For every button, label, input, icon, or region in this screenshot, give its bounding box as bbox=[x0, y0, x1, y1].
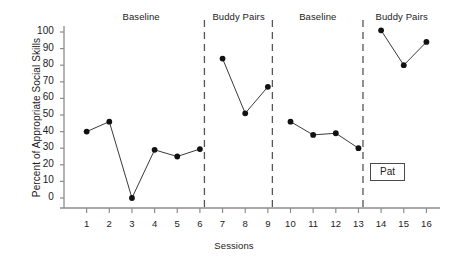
y-tick-label: 10 bbox=[28, 174, 54, 185]
y-tick-label: 20 bbox=[28, 158, 54, 169]
data-point bbox=[106, 119, 112, 125]
x-tick-label: 11 bbox=[303, 218, 323, 229]
phase-label: Baseline bbox=[299, 11, 336, 22]
x-tick-label: 2 bbox=[99, 218, 119, 229]
x-tick-label: 10 bbox=[281, 218, 301, 229]
series-line-phase-2 bbox=[291, 122, 359, 149]
phase-label: Buddy Pairs bbox=[375, 11, 427, 22]
x-tick-label: 15 bbox=[394, 218, 414, 229]
data-point bbox=[310, 132, 316, 138]
x-tick-label: 16 bbox=[416, 218, 436, 229]
data-point bbox=[356, 145, 362, 151]
y-tick-label: 90 bbox=[28, 42, 54, 53]
chart-figure: Percent of Appropriate Social Skills Ses… bbox=[0, 0, 468, 265]
series-line-phase-1 bbox=[223, 59, 268, 114]
data-point bbox=[174, 154, 180, 160]
y-tick-label: 80 bbox=[28, 58, 54, 69]
data-point bbox=[265, 84, 271, 90]
data-point bbox=[378, 27, 384, 33]
x-tick-label: 3 bbox=[122, 218, 142, 229]
x-tick-label: 14 bbox=[371, 218, 391, 229]
x-tick-label: 4 bbox=[145, 218, 165, 229]
x-tick-label: 9 bbox=[258, 218, 278, 229]
data-point bbox=[242, 110, 248, 116]
x-tick-label: 7 bbox=[213, 218, 233, 229]
data-point bbox=[288, 119, 294, 125]
x-tick-label: 12 bbox=[326, 218, 346, 229]
data-point bbox=[424, 39, 430, 45]
data-point bbox=[129, 195, 135, 201]
series-line-phase-0 bbox=[87, 122, 200, 198]
phase-label: Buddy Pairs bbox=[212, 11, 264, 22]
x-tick-label: 5 bbox=[167, 218, 187, 229]
y-tick-label: 50 bbox=[28, 108, 54, 119]
data-point bbox=[84, 129, 90, 135]
y-tick-label: 100 bbox=[28, 25, 54, 36]
y-tick-label: 40 bbox=[28, 125, 54, 136]
x-tick-label: 6 bbox=[190, 218, 210, 229]
y-tick-label: 60 bbox=[28, 91, 54, 102]
data-point bbox=[401, 62, 407, 68]
phase-label: Baseline bbox=[123, 11, 160, 22]
x-tick-label: 1 bbox=[77, 218, 97, 229]
data-point bbox=[152, 147, 158, 153]
data-point bbox=[333, 130, 339, 136]
x-axis-label: Sessions bbox=[0, 240, 468, 251]
y-tick-label: 70 bbox=[28, 75, 54, 86]
y-tick-label: 30 bbox=[28, 141, 54, 152]
subject-label-box: Pat bbox=[370, 163, 405, 181]
x-tick-label: 13 bbox=[348, 218, 368, 229]
y-tick-label: 0 bbox=[28, 191, 54, 202]
data-point bbox=[197, 146, 203, 152]
series-line-phase-3 bbox=[381, 30, 426, 65]
subject-label-text: Pat bbox=[380, 166, 395, 177]
x-tick-label: 8 bbox=[235, 218, 255, 229]
data-point bbox=[220, 56, 226, 62]
